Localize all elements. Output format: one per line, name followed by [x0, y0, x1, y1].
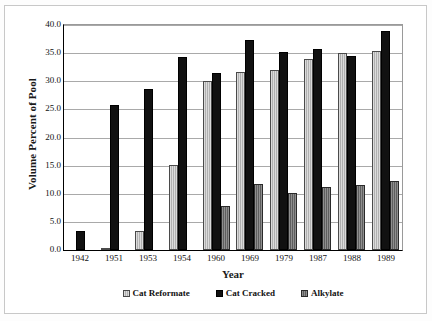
- y-axis-tick-label: 25.0: [17, 103, 61, 113]
- x-axis-tick-label: 1954: [165, 253, 199, 267]
- bar-reformate: [236, 72, 245, 250]
- x-axis-tick-label: 1960: [199, 253, 233, 267]
- chart-legend: Cat ReformateCat CrackedAlkylate: [63, 288, 403, 298]
- y-axis-tick-label: 20.0: [17, 132, 61, 142]
- bar-reformate: [338, 53, 347, 250]
- bar-alkylate: [254, 184, 263, 250]
- bar-reformate: [203, 81, 212, 250]
- y-axis-tick-label: 0.0: [17, 244, 61, 254]
- bar-reformate: [270, 70, 279, 250]
- bar-reformate: [304, 59, 313, 250]
- bar-alkylate: [288, 193, 297, 250]
- bar-alkylate: [221, 206, 230, 250]
- legend-label: Cat Reformate: [133, 288, 190, 298]
- bar-cracked: [212, 73, 221, 250]
- x-axis-tick-label: 1989: [369, 253, 403, 267]
- y-axis-tick-label: 5.0: [17, 216, 61, 226]
- plot-area: [63, 24, 403, 251]
- bar-reformate: [372, 51, 381, 250]
- x-axis-tick-label: 1969: [233, 253, 267, 267]
- bar-cracked: [144, 89, 153, 250]
- bar-cracked: [76, 231, 85, 250]
- bar-groups: [64, 25, 402, 250]
- y-axis-tick-label: 35.0: [17, 47, 61, 57]
- bar-cracked: [245, 40, 254, 250]
- bar-reformate: [135, 231, 144, 250]
- bar-group: [132, 25, 166, 250]
- legend-label: Cat Cracked: [226, 288, 275, 298]
- bar-cracked: [381, 31, 390, 250]
- bar-group: [334, 25, 368, 250]
- bar-alkylate: [356, 185, 365, 250]
- legend-swatch-icon: [216, 290, 223, 297]
- x-axis-tick-label: 1979: [267, 253, 301, 267]
- x-axis-tick-label: 1942: [63, 253, 97, 267]
- legend-swatch-icon: [301, 290, 308, 297]
- bar-group: [301, 25, 335, 250]
- bar-alkylate: [390, 181, 399, 250]
- bar-cracked: [347, 56, 356, 250]
- chart-page: Volume Percent of Pool 19421951195319541…: [0, 0, 432, 321]
- bar-reformate: [101, 248, 110, 250]
- legend-entry: Alkylate: [301, 288, 344, 298]
- x-axis-tick-labels: 1942195119531954196019691979198719881989: [63, 253, 403, 267]
- x-axis-tick-label: 1987: [301, 253, 335, 267]
- bar-group: [199, 25, 233, 250]
- bar-cracked: [178, 57, 187, 251]
- bar-group: [233, 25, 267, 250]
- bar-group: [98, 25, 132, 250]
- bar-cracked: [110, 105, 119, 250]
- bar-group: [64, 25, 98, 250]
- y-axis-tick-label: 40.0: [17, 19, 61, 29]
- bar-group: [267, 25, 301, 250]
- y-axis-tick-label: 30.0: [17, 75, 61, 85]
- bar-cracked: [313, 49, 322, 250]
- bar-cracked: [279, 52, 288, 250]
- x-axis-title: Year: [63, 268, 403, 280]
- bar-group: [165, 25, 199, 250]
- legend-entry: Cat Cracked: [216, 288, 275, 298]
- x-axis-tick-label: 1951: [97, 253, 131, 267]
- bar-reformate: [169, 165, 178, 250]
- y-axis-tick-label: 15.0: [17, 160, 61, 170]
- x-axis-tick-label: 1953: [131, 253, 165, 267]
- y-axis-tick-label: 10.0: [17, 188, 61, 198]
- legend-swatch-icon: [123, 290, 130, 297]
- gridline: [64, 250, 402, 251]
- legend-label: Alkylate: [311, 288, 344, 298]
- bar-alkylate: [322, 187, 331, 250]
- x-axis-tick-label: 1988: [335, 253, 369, 267]
- bar-group: [368, 25, 402, 250]
- legend-entry: Cat Reformate: [123, 288, 190, 298]
